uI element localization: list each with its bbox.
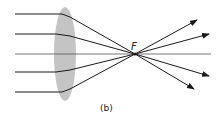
ray-4 (15, 54, 209, 76)
ray-2 (15, 34, 209, 54)
focal-point (133, 52, 136, 55)
converging-lens-diagram: F (b) (0, 0, 223, 119)
figure-caption: (b) (100, 103, 113, 113)
focal-label: F (131, 41, 137, 52)
ray-5 (15, 54, 194, 92)
